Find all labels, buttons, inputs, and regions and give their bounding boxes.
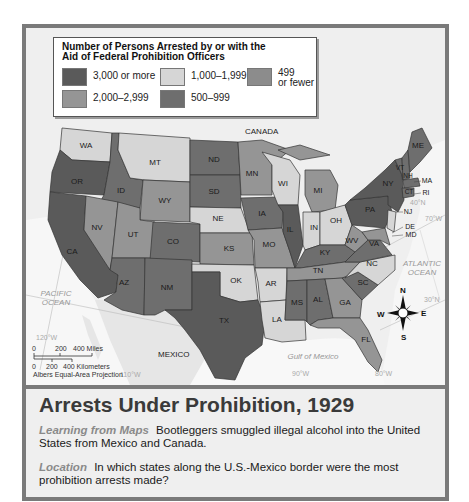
svg-text:80°W: 80°W (375, 370, 393, 377)
svg-text:TN: TN (313, 266, 324, 275)
svg-text:200: 200 (55, 345, 67, 352)
svg-text:CT: CT (405, 188, 414, 195)
svg-text:VA: VA (369, 239, 380, 248)
legend-swatch (160, 90, 185, 108)
learning-from-maps-text: Learning from Maps Bootleggers smuggled … (39, 424, 434, 450)
svg-text:W: W (377, 310, 385, 319)
svg-text:0: 0 (32, 345, 36, 352)
svg-text:CANADA: CANADA (245, 127, 279, 136)
svg-text:110°W: 110°W (120, 371, 141, 378)
svg-text:FL: FL (361, 335, 371, 344)
svg-text:WA: WA (80, 141, 93, 150)
svg-text:AL: AL (313, 295, 323, 304)
state-nj (387, 210, 396, 232)
legend-title: Number of Persons Arrested by or with th… (62, 42, 282, 62)
svg-text:90°W: 90°W (292, 370, 310, 377)
svg-text:OCEAN: OCEAN (408, 268, 437, 277)
map-title: Arrests Under Prohibition, 1929 (39, 393, 354, 417)
svg-text:WV: WV (346, 236, 360, 245)
svg-text:S: S (401, 333, 407, 342)
legend-item-1000-1999: 1,000–1,999 (160, 68, 247, 86)
svg-text:GA: GA (339, 298, 351, 307)
svg-text:VT: VT (396, 164, 404, 171)
svg-text:MN: MN (246, 169, 259, 178)
svg-text:NY: NY (382, 179, 394, 188)
svg-text:LA: LA (272, 315, 282, 324)
legend-item-3000-or-more: 3,000 or more (62, 68, 155, 86)
svg-text:IN: IN (310, 223, 318, 232)
legend-swatch (247, 68, 272, 86)
svg-text:AR: AR (265, 279, 276, 288)
svg-text:TX: TX (219, 316, 230, 325)
svg-text:ID: ID (117, 186, 125, 195)
map-legend: Number of Persons Arrested by or with th… (53, 37, 317, 117)
svg-text:MI: MI (314, 186, 323, 195)
svg-text:E: E (421, 309, 427, 318)
svg-text:SD: SD (208, 187, 219, 196)
svg-text:OCEAN: OCEAN (42, 298, 71, 307)
svg-text:NM: NM (161, 283, 174, 292)
svg-text:WI: WI (278, 179, 288, 188)
svg-text:OH: OH (330, 216, 342, 225)
svg-text:SC: SC (357, 278, 368, 287)
svg-text:CO: CO (167, 237, 179, 246)
svg-text:Albers Equal-Area Projection: Albers Equal-Area Projection (33, 371, 123, 379)
svg-text:NH: NH (403, 172, 413, 179)
svg-text:NV: NV (91, 223, 103, 232)
map-caption: Arrests Under Prohibition, 1929 Learning… (26, 389, 445, 497)
location-question: Location In which states along the U.S.-… (39, 461, 434, 487)
legend-swatch (160, 68, 185, 86)
svg-text:MD: MD (406, 231, 417, 238)
svg-text:IA: IA (258, 209, 266, 218)
svg-text:200: 200 (46, 363, 58, 370)
legend-item-499-or-fewer: 499 or fewer (247, 68, 314, 88)
svg-text:MS: MS (291, 298, 303, 307)
state-ma (403, 178, 420, 188)
svg-text:120°W: 120°W (36, 334, 57, 341)
legend-swatch (62, 68, 87, 86)
svg-text:70°W: 70°W (425, 215, 443, 222)
svg-text:ME: ME (412, 141, 424, 150)
svg-text:Gulf of Mexico: Gulf of Mexico (287, 352, 339, 361)
legend-item-500-999: 500–999 (160, 90, 230, 108)
svg-text:OR: OR (71, 177, 83, 186)
svg-text:30°N: 30°N (424, 296, 440, 303)
svg-text:ATLANTIC: ATLANTIC (402, 259, 441, 268)
svg-text:DE: DE (405, 223, 415, 230)
svg-text:40°N: 40°N (410, 199, 426, 206)
svg-text:AZ: AZ (119, 278, 129, 287)
svg-text:PA: PA (365, 205, 376, 214)
svg-text:KY: KY (320, 248, 331, 257)
svg-text:MEXICO: MEXICO (158, 350, 190, 359)
svg-text:UT: UT (128, 230, 139, 239)
svg-text:0: 0 (32, 363, 36, 370)
svg-text:PACIFIC: PACIFIC (41, 289, 72, 298)
svg-text:MA: MA (422, 177, 433, 184)
svg-text:MT: MT (149, 158, 161, 167)
svg-text:MO: MO (263, 240, 276, 249)
svg-text:NJ: NJ (404, 208, 413, 215)
legend-swatch (62, 90, 87, 108)
svg-text:IL: IL (287, 225, 294, 234)
svg-text:400 Kilometers: 400 Kilometers (63, 363, 110, 370)
svg-text:ND: ND (208, 155, 220, 164)
svg-text:NE: NE (212, 214, 223, 223)
svg-text:N: N (400, 286, 406, 295)
svg-text:RI: RI (423, 189, 430, 196)
svg-text:CA: CA (66, 247, 78, 256)
svg-text:NC: NC (366, 259, 378, 268)
svg-text:KS: KS (224, 244, 235, 253)
svg-text:400 Miles: 400 Miles (73, 345, 103, 352)
svg-text:OK: OK (230, 276, 242, 285)
legend-item-2000-2999: 2,000–2,999 (62, 90, 149, 108)
svg-text:WY: WY (159, 196, 173, 205)
